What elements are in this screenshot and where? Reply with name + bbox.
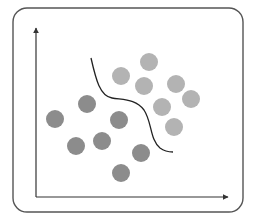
class-a-point	[46, 110, 64, 128]
class-a-point	[110, 111, 128, 129]
class-a-point	[112, 164, 130, 182]
class-b-point	[167, 75, 185, 93]
class-b-point	[165, 118, 183, 136]
diagram-canvas	[0, 0, 258, 216]
class-b-point	[153, 98, 171, 116]
scatter-diagram	[0, 0, 258, 216]
class-a-point	[78, 95, 96, 113]
diagram-frame	[13, 8, 243, 212]
class-a-point	[93, 132, 111, 150]
class-b-point	[112, 67, 130, 85]
class-b-point	[140, 53, 158, 71]
class-a-point	[67, 137, 85, 155]
class-b-point	[182, 90, 200, 108]
class-b-point	[135, 77, 153, 95]
data-points	[46, 53, 200, 182]
class-a-point	[132, 144, 150, 162]
